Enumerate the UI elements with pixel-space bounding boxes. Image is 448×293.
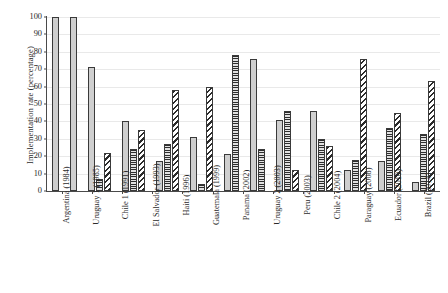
x-label-cell: Peru (2003) (289, 191, 319, 291)
x-label-cell: Uruguay 2 (2003) (259, 191, 289, 291)
bar-group (310, 17, 333, 191)
bar (258, 149, 265, 191)
bar (344, 170, 351, 191)
bar (172, 90, 179, 191)
y-tick-mark (44, 17, 47, 18)
x-label-cell: Ecuador (2010) (379, 191, 409, 291)
x-tick-label: El Salvador (1993) (153, 163, 161, 226)
y-tick-label: 50 (18, 100, 46, 108)
y-tick-label: 80 (18, 48, 46, 56)
y-tick-mark (44, 156, 47, 157)
y-tick-label: 30 (18, 135, 46, 143)
y-tick-mark (44, 138, 47, 139)
y-tick-label: 100 (18, 13, 46, 21)
x-label-cell: Brazil (2014) (410, 191, 440, 291)
bar (378, 161, 385, 191)
bar (130, 149, 137, 191)
y-tick-label: 20 (18, 152, 46, 160)
bar (412, 182, 419, 191)
bar (284, 111, 291, 191)
y-tick-mark (44, 173, 47, 174)
x-tick-label: Uruguay 2 (2003) (274, 165, 282, 224)
x-label-cell: Haiti (1996) (168, 191, 198, 291)
bar (164, 144, 171, 191)
bar-series-container (47, 17, 440, 191)
x-tick-label: Uruguay 1 (1985) (92, 165, 100, 224)
x-label-cell: El Salvador (1993) (138, 191, 168, 291)
bar-group (250, 17, 265, 191)
bar (104, 153, 111, 191)
x-tick-label: Chile 1 (1991) (123, 171, 131, 219)
y-tick-mark (44, 34, 47, 35)
x-tick-label: Brazil (2014) (425, 173, 433, 217)
x-tick-label: Paraguay (2008) (364, 167, 372, 222)
bar (318, 139, 325, 191)
y-tick-mark (44, 51, 47, 52)
bar-chart: Implementation rate (percentage) 0102030… (0, 0, 448, 293)
bar (352, 160, 359, 191)
bar (224, 154, 231, 191)
bar-group (190, 17, 213, 191)
x-tick-label: Ecuador (2010) (395, 169, 403, 221)
y-tick-mark (44, 86, 47, 87)
bar (292, 170, 299, 191)
bar (198, 184, 205, 191)
x-axis-labels: Argentina (1984)Uruguay 1 (1985)Chile 1 … (47, 191, 440, 291)
x-tick-label: Argentina (1984) (62, 166, 70, 223)
x-label-cell: Paraguay (2008) (349, 191, 379, 291)
bar-group (70, 17, 77, 191)
x-label-cell: Chile 2 (2004) (319, 191, 349, 291)
x-label-cell: Chile 1 (1991) (107, 191, 137, 291)
bar (326, 146, 333, 191)
x-tick-label: Guatemala (1999) (213, 165, 221, 225)
bar (232, 55, 239, 191)
y-tick-mark (44, 69, 47, 70)
y-tick-label: 10 (18, 169, 46, 177)
x-tick-label: Chile 2 (2004) (334, 171, 342, 219)
bar-group (122, 17, 145, 191)
y-tick-mark (44, 191, 47, 192)
bar-group (52, 17, 59, 191)
x-label-cell: Uruguay 1 (1985) (77, 191, 107, 291)
y-tick-label: 70 (18, 65, 46, 73)
bar (386, 128, 393, 191)
bar-group (378, 17, 401, 191)
y-tick-mark (44, 104, 47, 105)
bar-group (412, 17, 435, 191)
x-tick-label: Haiti (1996) (183, 175, 191, 216)
bar (52, 17, 59, 191)
x-label-cell: Panama (2002) (228, 191, 258, 291)
y-tick-label: 0 (18, 187, 46, 195)
y-tick-mark (44, 121, 47, 122)
bar (70, 17, 77, 191)
bar-group (344, 17, 367, 191)
x-label-cell: Argentina (1984) (47, 191, 77, 291)
y-tick-label: 90 (18, 30, 46, 38)
bar-group (224, 17, 239, 191)
y-tick-label: 40 (18, 117, 46, 125)
x-tick-label: Peru (2003) (304, 175, 312, 214)
bar (138, 130, 145, 191)
x-label-cell: Guatemala (1999) (198, 191, 228, 291)
y-tick-label: 60 (18, 82, 46, 90)
x-tick-label: Panama (2002) (243, 170, 251, 220)
